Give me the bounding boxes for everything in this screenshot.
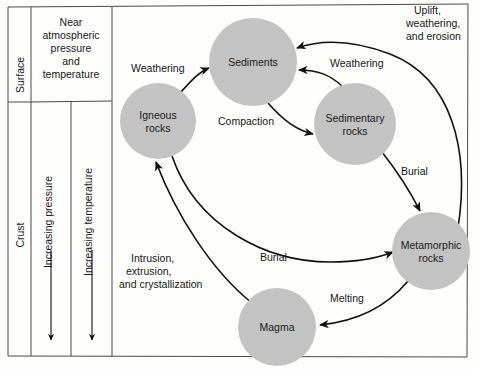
edge-label-intrusion-line-1: Intrusion, xyxy=(131,252,174,264)
edge-label-melting: Melting xyxy=(330,292,364,304)
axis-increasing-pressure: Increasing pressure xyxy=(42,176,54,340)
node-metamorphic-label-line-2: rocks xyxy=(418,252,443,264)
node-sediments[interactable]: Sediments xyxy=(209,18,297,106)
panel-crust-text: Crust xyxy=(14,222,26,247)
node-magma-label: Magma xyxy=(259,321,294,333)
edge-label-uplift-line-1: Uplift, xyxy=(414,4,441,16)
edge-label-compaction: Compaction xyxy=(218,115,274,127)
node-sedimentary-rocks[interactable]: Sedimentary rocks xyxy=(314,83,396,165)
panel-surface-text: Surface xyxy=(14,57,26,93)
node-igneous-label-line-1: Igneous xyxy=(139,109,176,121)
axis-increasing-temperature: Increasing temperature xyxy=(82,168,94,340)
edge-label-intrusion-line-2: extrusion, xyxy=(126,265,172,277)
edge-label-intrusion-line-3: and crystallization xyxy=(119,278,203,290)
edge-label-uplift-line-3: and erosion xyxy=(406,30,461,42)
node-metamorphic-label-line-1: Metamorphic xyxy=(401,239,462,251)
near-atm-line-4: and xyxy=(62,55,80,67)
near-atm-line-2: atmospheric xyxy=(42,29,99,41)
axis-pressure-label: Increasing pressure xyxy=(42,176,54,268)
edge-label-burial-sedimentary: Burial xyxy=(401,165,428,177)
edge-label-weathering-igneous: Weathering xyxy=(131,62,185,74)
diagram-canvas: Surface Crust Near atmospheric pressure … xyxy=(0,0,477,370)
arrow-weathering-sedimentary xyxy=(299,70,342,86)
node-igneous-rocks[interactable]: Igneous rocks xyxy=(120,83,196,159)
rock-cycle-diagram: Surface Crust Near atmospheric pressure … xyxy=(0,0,477,370)
near-atm-line-3: pressure xyxy=(51,42,92,54)
node-sedimentary-label-line-1: Sedimentary xyxy=(326,112,386,124)
node-magma[interactable]: Magma xyxy=(238,288,316,366)
node-metamorphic-rocks[interactable]: Metamorphic rocks xyxy=(392,212,470,290)
arrow-compaction xyxy=(268,103,313,134)
node-igneous-label-line-2: rocks xyxy=(145,122,170,134)
edge-label-weathering-sedimentary: Weathering xyxy=(330,57,384,69)
arrow-burial-igneous xyxy=(172,156,393,262)
near-atm-line-5: temperature xyxy=(43,68,100,80)
panel-near-atmospheric: Near atmospheric pressure and temperatur… xyxy=(42,16,99,80)
arrow-burial-sedimentary xyxy=(382,152,420,211)
edge-label-uplift-line-2: weathering, xyxy=(405,17,460,29)
node-igneous-circle[interactable] xyxy=(120,83,196,159)
node-sedimentary-label-line-2: rocks xyxy=(342,125,367,137)
panel-label-crust: Crust xyxy=(14,222,26,247)
panel-label-surface: Surface xyxy=(14,57,26,93)
near-atm-line-1: Near xyxy=(60,16,83,28)
node-metamorphic-circle[interactable] xyxy=(392,212,470,290)
edge-label-burial-igneous: Burial xyxy=(260,251,287,263)
node-sedimentary-circle[interactable] xyxy=(314,83,396,165)
node-sediments-label: Sediments xyxy=(228,56,278,68)
